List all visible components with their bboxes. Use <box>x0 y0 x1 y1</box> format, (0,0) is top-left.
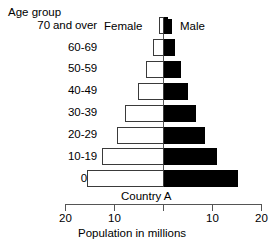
population-axis-tick <box>114 204 115 211</box>
population-axis: 20101020 <box>0 204 276 214</box>
population-axis-tick <box>65 204 66 211</box>
bar-male <box>164 17 169 34</box>
population-axis-tick <box>212 204 213 211</box>
pyramid-bar-row <box>0 17 276 34</box>
bar-male <box>164 105 197 122</box>
bar-female <box>146 61 164 78</box>
bar-female <box>125 105 164 122</box>
population-axis-tick-label: 20 <box>255 212 268 225</box>
population-pyramid-chart: Age group 70 and over 60-69 50-59 40-49 … <box>0 0 276 243</box>
population-axis-tick <box>261 204 262 211</box>
pyramid-bar-row <box>0 61 276 78</box>
bar-male <box>164 39 176 56</box>
bar-male <box>164 170 239 187</box>
plot-area <box>0 0 276 192</box>
bar-female <box>102 148 164 165</box>
bar-female <box>138 83 163 100</box>
population-axis-title-text: Population in millions <box>78 227 186 240</box>
bar-female <box>117 127 163 144</box>
population-axis-tick <box>163 204 164 211</box>
bar-male <box>164 127 205 144</box>
pyramid-bar-row <box>0 127 276 144</box>
pyramid-bar-row <box>0 83 276 100</box>
population-axis-tick-label: 10 <box>206 212 219 225</box>
population-axis-tick-label: 10 <box>108 212 121 225</box>
pyramid-bar-row <box>0 148 276 165</box>
population-axis-tick-label: 20 <box>59 212 72 225</box>
pyramid-bar-row <box>0 170 276 187</box>
bar-male <box>164 61 181 78</box>
bar-female <box>153 39 164 56</box>
bar-male <box>164 148 218 165</box>
pyramid-bar-row <box>0 105 276 122</box>
bar-female <box>87 170 164 187</box>
pyramid-bar-row <box>0 39 276 56</box>
bar-male <box>164 83 189 100</box>
chart-title-text: Country A <box>121 190 172 203</box>
